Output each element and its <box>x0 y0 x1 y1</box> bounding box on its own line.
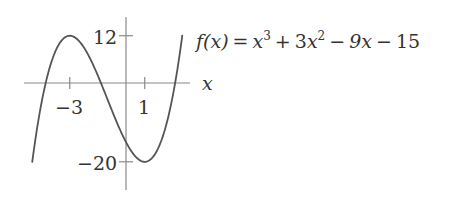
formula-op2: − <box>329 30 345 52</box>
y-tick-label-neg20: −20 <box>77 154 117 173</box>
x-axis-label: x <box>202 74 213 93</box>
formula-t2-exp: 2 <box>318 29 326 43</box>
formula-t4: 15 <box>396 30 420 52</box>
formula-t2-coef: 3 <box>295 30 307 52</box>
formula-op1: + <box>275 30 291 52</box>
x-tick-label-1: 1 <box>138 98 150 117</box>
formula-op3: − <box>376 30 392 52</box>
formula-t3: 9x <box>349 30 372 52</box>
formula-t1: x <box>253 30 264 52</box>
function-label: f(x)=x3+3x2−9x−15 <box>196 29 420 52</box>
x-tick-label-neg3: −3 <box>55 98 83 117</box>
formula-t2: x <box>307 30 318 52</box>
formula-eq: = <box>233 30 249 52</box>
y-tick-label-12: 12 <box>93 28 117 47</box>
formula-t1-exp: 3 <box>263 29 271 43</box>
formula-lhs: f(x) <box>196 30 229 52</box>
